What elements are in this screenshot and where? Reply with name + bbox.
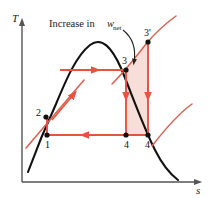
state-point-label: 3 [122,55,127,66]
state-point-marker [123,132,128,137]
state-point-marker [145,39,150,44]
state-point-label: 4 [124,139,129,150]
annotation-subscript-text: net [113,24,122,32]
state-point-4: 4 [123,132,129,150]
state-point-1: 1 [44,132,50,150]
ts-diagram-figure: T s [0,0,212,198]
state-point-2: 2 [36,107,49,120]
net-work-annotation: Increase in w net [49,18,122,32]
y-axis-label: T [12,12,19,24]
state-point-label: 1 [45,139,50,150]
axes-group: T s [12,12,200,196]
low-pressure-isobar-left-segment [26,80,84,148]
low-pressure-isobar-right-segment [152,104,192,146]
state-point-marker [44,132,49,137]
x-axis-label: s [196,184,200,196]
state-point-label: 4' [145,139,152,150]
state-point-label: 2 [36,107,41,118]
state-point-label: 3' [144,27,151,38]
state-point-marker [123,67,128,72]
state-point-marker [145,132,150,137]
state-point-marker [43,114,48,119]
ts-diagram-canvas: T s [0,0,212,198]
saturation-dome-curve [28,42,178,180]
state-point-4-prime: 4' [145,132,152,150]
annotation-prefix-text: Increase in [49,18,96,29]
state-point-3-prime: 3' [144,27,151,45]
